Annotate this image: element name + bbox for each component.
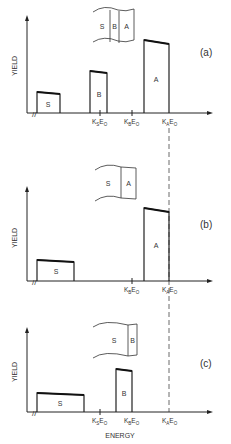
tick-label-kbe0: KBEO bbox=[124, 417, 140, 426]
block-label: B bbox=[122, 390, 127, 397]
inset-layer-label: S bbox=[100, 23, 105, 30]
inset-layer-label: S bbox=[112, 337, 117, 344]
inset-layer-label: A bbox=[124, 23, 129, 30]
svg-text:KBEO: KBEO bbox=[124, 417, 140, 426]
panel-a: // YIELD S B A KSEO KBEO KAEO bbox=[11, 7, 212, 126]
inset-layer-label: B bbox=[130, 337, 135, 344]
x-axis-label: ENERGY bbox=[105, 432, 135, 439]
panel-label: (c) bbox=[200, 358, 212, 369]
svg-text:KSEO: KSEO bbox=[92, 118, 108, 127]
backscattering-spectra-diagram: // YIELD S B A KSEO KBEO KAEO bbox=[0, 0, 231, 444]
inset-layer-label: S bbox=[106, 180, 111, 187]
tick-label-kbe0: KBEO bbox=[124, 286, 140, 295]
panel-b: // YIELD S A KBEO KAEO S A (b) bbox=[11, 165, 212, 294]
panel-label: (a) bbox=[200, 47, 212, 58]
tick-label-kse0: KSEO bbox=[92, 118, 108, 127]
panel-label: (b) bbox=[200, 219, 212, 230]
tick-label-kae0: KAEO bbox=[162, 118, 178, 127]
block-label: S bbox=[58, 400, 63, 407]
svg-text:KAEO: KAEO bbox=[162, 118, 178, 127]
sample-inset: S B A bbox=[93, 7, 134, 43]
tick-label-kae0: KAEO bbox=[162, 417, 178, 426]
sample-inset: S B bbox=[93, 322, 137, 358]
block-label: B bbox=[97, 91, 102, 98]
tick-label-kbe0: KBEO bbox=[124, 118, 140, 127]
y-axis-label: YIELD bbox=[11, 362, 18, 382]
tick-label-kae0: KAEO bbox=[162, 286, 178, 295]
svg-text:KBEO: KBEO bbox=[124, 118, 140, 127]
svg-text:KAEO: KAEO bbox=[162, 286, 178, 295]
svg-text:KBEO: KBEO bbox=[124, 286, 140, 295]
block-label: A bbox=[154, 76, 159, 83]
y-axis-label: YIELD bbox=[11, 56, 18, 76]
block-label: S bbox=[46, 101, 51, 108]
block-label: S bbox=[54, 268, 59, 275]
tick-label-kse0: KSEO bbox=[92, 417, 108, 426]
panel-c: // YIELD S B KSEO KBEO KAEO S B (c) ENER… bbox=[11, 322, 212, 439]
sample-inset: S A bbox=[95, 165, 136, 201]
block-label: A bbox=[154, 242, 159, 249]
svg-text:KAEO: KAEO bbox=[162, 417, 178, 426]
inset-layer-label: A bbox=[126, 180, 131, 187]
svg-text:KSEO: KSEO bbox=[92, 417, 108, 426]
y-axis-label: YIELD bbox=[11, 228, 18, 248]
inset-layer-label: B bbox=[112, 23, 117, 30]
